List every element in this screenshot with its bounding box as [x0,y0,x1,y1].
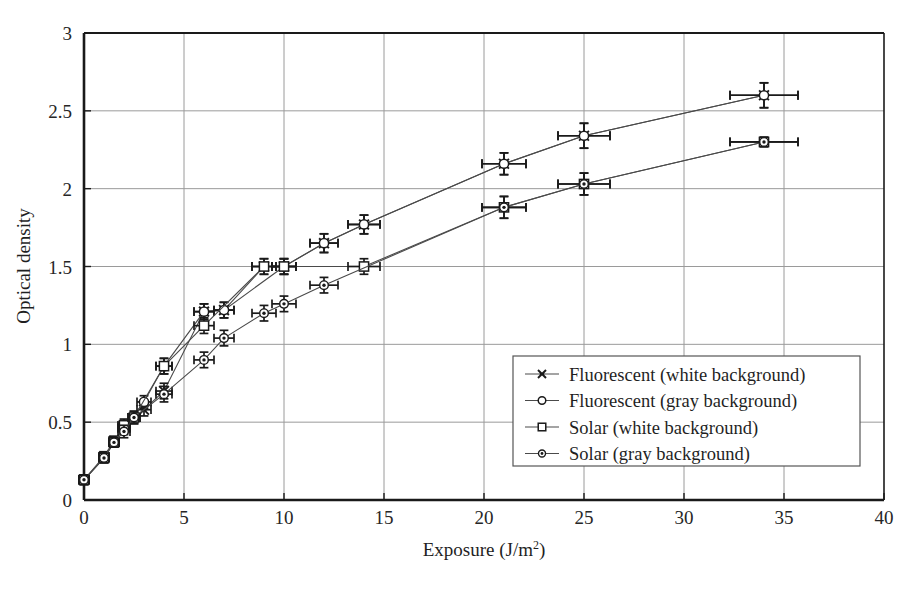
x-tick-label: 40 [875,507,894,528]
marker-dot-center [582,182,585,185]
marker-dot-center [102,456,105,459]
marker-dot-center [541,452,544,455]
x-tick-label: 35 [775,507,794,528]
marker-dot-center [122,430,125,433]
marker-dot-center [82,478,85,481]
svg-text:Optical density: Optical density [13,208,34,324]
legend-label: Fluorescent (gray background) [569,391,797,412]
y-tick-label: 2 [63,179,73,200]
marker-open-circle [199,307,208,316]
marker-open-square [538,423,546,431]
x-axis-title: Exposure (J/m2) [423,538,546,561]
svg-text:Exposure (J/m2): Exposure (J/m2) [423,538,546,561]
marker-dot-center [762,140,765,143]
x-tick-label: 15 [375,507,394,528]
marker-open-circle [579,131,588,140]
marker-dot-center [162,392,165,395]
y-tick-label: 3 [63,23,73,44]
marker-open-circle [759,91,768,100]
x-tick-label: 30 [675,507,694,528]
y-tick-label: 2.5 [48,101,72,122]
marker-dot-center [202,358,205,361]
x-tick-label: 25 [575,507,594,528]
chart-legend: Fluorescent (white background)Fluorescen… [513,356,860,466]
marker-open-circle [319,239,328,248]
x-tick-label: 5 [179,507,189,528]
y-tick-label: 1 [63,334,73,355]
y-axis-title: Optical density [13,208,34,324]
marker-open-square [159,362,168,371]
legend-label: Fluorescent (white background) [569,365,805,386]
marker-open-square [199,321,208,330]
legend-label: Solar (white background) [569,418,758,439]
marker-open-circle [538,397,546,405]
marker-open-square [279,262,288,271]
marker-dot-center [112,441,115,444]
x-tick-label: 0 [79,507,89,528]
chart-figure: 0510152025303540 00.511.522.53 Fluoresce… [0,0,916,592]
x-tick-label: 10 [275,507,294,528]
marker-open-square [259,262,268,271]
y-tick-label: 0.5 [48,412,72,433]
marker-dot-center [502,206,505,209]
marker-open-circle [499,159,508,168]
marker-open-circle [359,220,368,229]
marker-dot-center [222,336,225,339]
marker-dot-center [322,283,325,286]
marker-dot-center [132,416,135,419]
x-tick-label: 20 [475,507,494,528]
marker-open-circle [219,305,228,314]
marker-dot-center [282,302,285,305]
legend-label: Solar (gray background) [569,444,750,465]
y-tick-label: 1.5 [48,257,72,278]
marker-dot-center [262,312,265,315]
plot-background [0,0,916,592]
scatter-plot-svg: 0510152025303540 00.511.522.53 Fluoresce… [0,0,916,592]
y-tick-label: 0 [63,490,73,511]
